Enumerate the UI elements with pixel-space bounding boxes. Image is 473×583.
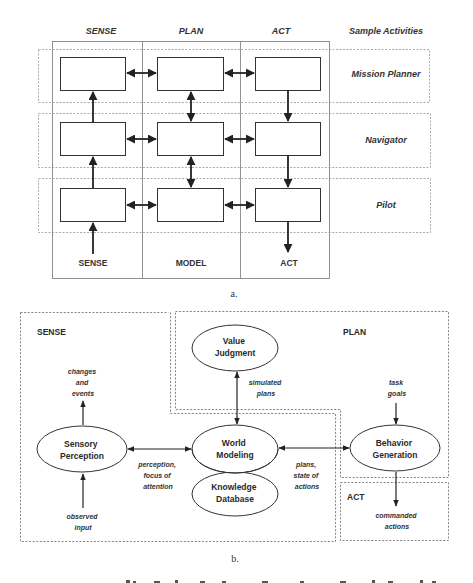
sample-activities-header: Sample Activities (349, 26, 423, 36)
section-label-plan: PLAN (343, 327, 366, 337)
box-r3-act (256, 189, 321, 222)
annotation-commanded-actions: commanded actions (375, 512, 418, 530)
box-r2-act (256, 123, 321, 156)
box-r1-plan (158, 58, 224, 91)
col-header-plan: PLAN (179, 26, 204, 36)
row-label-mission-planner: Mission Planner (351, 69, 421, 79)
box-r3-sense (61, 189, 126, 222)
row-label-navigator: Navigator (365, 135, 407, 145)
row-label-pilot: Pilot (376, 200, 397, 210)
node-behavior-generation (350, 425, 440, 471)
section-label-act: ACT (347, 492, 365, 502)
figure-b: SENSE PLAN ACT Value Judgment Sensory Pe… (21, 312, 449, 565)
box-r2-sense (61, 123, 126, 156)
col-header-sense: SENSE (86, 26, 118, 36)
diagram-canvas: SENSE PLAN ACT Sample Activities Mission… (0, 0, 473, 583)
annotation-plans-state: plans, state of actions (294, 461, 321, 490)
node-sensory-perception (37, 426, 127, 472)
annotation-observed-input: observed input (66, 513, 99, 532)
caption-b: b. (231, 553, 239, 564)
annotation-simulated-plans: simulated plans (249, 379, 284, 398)
col-header-act: ACT (271, 26, 292, 36)
box-r2-plan (158, 123, 224, 156)
bottom-label-sense: SENSE (79, 258, 108, 268)
annotation-task-goals: task goals (387, 379, 406, 398)
box-r1-sense (61, 58, 126, 91)
annotation-perception-focus: perception, focus of attention (137, 461, 178, 490)
annotation-changes-events: changes and events (68, 368, 98, 397)
box-r1-act (256, 58, 321, 91)
bottom-label-act: ACT (280, 258, 298, 268)
box-r3-plan (158, 189, 224, 222)
section-label-sense: SENSE (37, 327, 66, 337)
bottom-label-model: MODEL (176, 258, 207, 268)
figure-a: SENSE PLAN ACT Sample Activities Mission… (39, 26, 431, 299)
caption-a: a. (231, 288, 238, 299)
